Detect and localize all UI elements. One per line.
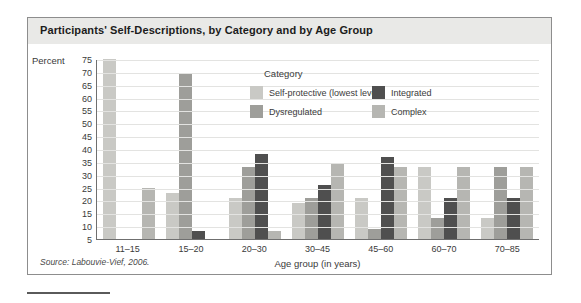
bar bbox=[166, 193, 179, 239]
legend-swatch-icon bbox=[250, 105, 263, 118]
x-axis-tick-label: 20–30 bbox=[223, 244, 286, 254]
bar bbox=[229, 198, 242, 239]
bar bbox=[292, 203, 305, 239]
y-axis-tick-label: 35 bbox=[66, 158, 92, 168]
legend-swatch-icon bbox=[250, 86, 263, 99]
bar bbox=[192, 231, 205, 239]
page-title: Participants' Self-Descriptions, by Cate… bbox=[40, 24, 373, 36]
gridline bbox=[97, 60, 539, 61]
bar bbox=[431, 218, 444, 239]
legend-items: Self-protective (lowest level)Integrated… bbox=[250, 86, 494, 124]
bottom-rule bbox=[27, 292, 110, 294]
gridline bbox=[97, 227, 539, 228]
gridline bbox=[97, 214, 539, 215]
bar bbox=[268, 231, 281, 239]
y-axis-tick-label: 25 bbox=[66, 184, 92, 194]
y-axis-tick-label: 65 bbox=[66, 81, 92, 91]
bar bbox=[305, 198, 318, 239]
figure-panel: Participants' Self-Descriptions, by Cate… bbox=[27, 17, 552, 275]
y-axis-tick-label: 60 bbox=[66, 94, 92, 104]
x-axis-tick-label: 30–45 bbox=[286, 244, 349, 254]
bar bbox=[355, 198, 368, 239]
y-axis-tick-label: 50 bbox=[66, 119, 92, 129]
bar bbox=[242, 167, 255, 239]
legend-item-label: Complex bbox=[391, 107, 427, 117]
legend-item: Dysregulated bbox=[250, 105, 372, 118]
bar bbox=[394, 167, 407, 239]
y-axis-tick-label: 5 bbox=[66, 235, 92, 245]
x-axis-tick-label: 45–60 bbox=[349, 244, 412, 254]
bar bbox=[418, 167, 431, 239]
gridline bbox=[97, 150, 539, 151]
x-axis-tick-label: 70–85 bbox=[476, 244, 539, 254]
y-axis-ticks: 75706560555045403530252015105 bbox=[66, 44, 92, 276]
x-axis-tick-label: 60–70 bbox=[412, 244, 475, 254]
bar bbox=[444, 198, 457, 239]
y-axis-tick-label: 30 bbox=[66, 171, 92, 181]
gridline bbox=[97, 124, 539, 125]
legend-item: Integrated bbox=[372, 86, 494, 99]
gridline bbox=[97, 137, 539, 138]
legend-item-label: Integrated bbox=[391, 88, 432, 98]
y-axis-tick-label: 70 bbox=[66, 68, 92, 78]
legend-swatch-icon bbox=[372, 86, 385, 99]
legend-item-label: Self-protective (lowest level) bbox=[269, 88, 382, 98]
legend-item-label: Dysregulated bbox=[269, 107, 322, 117]
legend-item: Complex bbox=[372, 105, 494, 118]
plot-area: Percent 75706560555045403530252015105 11… bbox=[28, 44, 551, 276]
x-axis-tick-label: 15–20 bbox=[159, 244, 222, 254]
legend-swatch-icon bbox=[372, 105, 385, 118]
bar bbox=[368, 229, 381, 239]
x-axis-title: Age group (in years) bbox=[96, 258, 539, 269]
x-axis-ticks: 11–1515–2020–3030–4545–6060–7070–85 bbox=[96, 244, 539, 254]
legend-title: Category bbox=[250, 68, 494, 79]
x-axis-tick-label: 11–15 bbox=[96, 244, 159, 254]
bar bbox=[520, 167, 533, 239]
gridline bbox=[97, 201, 539, 202]
bar bbox=[318, 185, 331, 239]
y-axis-tick-label: 45 bbox=[66, 132, 92, 142]
gridline bbox=[97, 189, 539, 190]
y-axis-tick-label: 10 bbox=[66, 222, 92, 232]
gridline bbox=[97, 176, 539, 177]
y-axis-tick-label: 75 bbox=[66, 55, 92, 65]
bar bbox=[457, 167, 470, 239]
bar bbox=[142, 188, 155, 239]
y-axis-title: Percent bbox=[32, 55, 65, 66]
bar bbox=[494, 167, 507, 239]
legend: Category Self-protective (lowest level)I… bbox=[250, 68, 494, 124]
y-axis-tick-label: 55 bbox=[66, 106, 92, 116]
y-axis-tick-label: 40 bbox=[66, 145, 92, 155]
source-note: Source: Labouvie-Vief, 2006. bbox=[40, 257, 149, 267]
y-axis-tick-label: 15 bbox=[66, 209, 92, 219]
gridline bbox=[97, 163, 539, 164]
legend-item: Self-protective (lowest level) bbox=[250, 86, 372, 99]
bar bbox=[507, 198, 520, 239]
bar bbox=[481, 218, 494, 239]
y-axis-tick-label: 20 bbox=[66, 196, 92, 206]
